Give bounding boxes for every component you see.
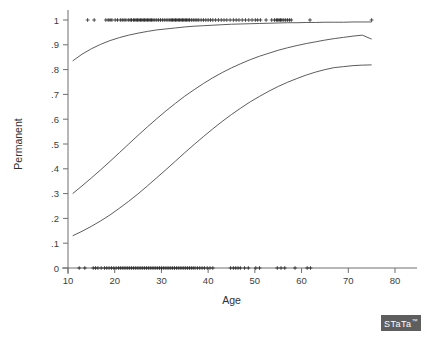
- trademark-symbol: ™: [412, 318, 419, 324]
- scatter-marker-plus: [99, 266, 103, 270]
- scatter-marker-plus: [258, 266, 262, 270]
- stata-logo-text: STaTa: [384, 319, 412, 329]
- y-tick-label: .5: [51, 139, 59, 150]
- logistic-regression-plot: 0.1.2.3.4.5.6.7.8.91 1020304050607080 Ag…: [0, 0, 427, 339]
- scatter-marker-plus: [86, 18, 90, 22]
- scatter-marker-plus: [293, 266, 297, 270]
- scatter-marker-plus: [264, 18, 268, 22]
- scatter-points: [77, 18, 373, 270]
- y-tick-label: 1: [54, 15, 59, 26]
- y-axis-title: Permanent: [12, 118, 24, 169]
- x-tick-label: 80: [390, 275, 401, 286]
- curve-lower-curve: [73, 65, 372, 236]
- fitted-curves: [73, 22, 372, 236]
- scatter-marker-plus: [247, 18, 251, 22]
- scatter-marker-plus: [110, 18, 114, 22]
- y-tick-label: .1: [51, 238, 59, 249]
- scatter-marker-plus: [275, 266, 279, 270]
- y-tick-label: .2: [51, 213, 59, 224]
- x-tick-label: 10: [63, 275, 74, 286]
- scatter-marker-plus: [92, 18, 96, 22]
- chart-container: 0.1.2.3.4.5.6.7.8.91 1020304050607080 Ag…: [0, 0, 427, 339]
- y-tick-label: .6: [51, 114, 59, 125]
- y-tick-label: .9: [51, 39, 59, 50]
- x-tick-label: 70: [343, 275, 354, 286]
- x-tick-label: 50: [250, 275, 261, 286]
- x-tick-label: 30: [156, 275, 167, 286]
- scatter-marker-plus: [308, 18, 312, 22]
- x-tick-label: 40: [203, 275, 214, 286]
- x-tick-label: 60: [296, 275, 307, 286]
- scatter-marker-plus: [83, 266, 87, 270]
- scatter-marker-plus: [225, 18, 229, 22]
- scatter-marker-plus: [259, 18, 263, 22]
- scatter-marker-plus: [283, 266, 287, 270]
- scatter-marker-plus: [289, 18, 293, 22]
- y-tick-label: .7: [51, 89, 59, 100]
- scatter-marker-plus: [250, 18, 254, 22]
- scatter-marker-plus: [240, 18, 244, 22]
- y-tick-label: .3: [51, 188, 59, 199]
- scatter-marker-plus: [237, 18, 241, 22]
- scatter-marker-plus: [228, 18, 232, 22]
- scatter-marker-plus: [238, 266, 242, 270]
- scatter-marker-plus: [305, 266, 309, 270]
- scatter-marker-plus: [244, 18, 248, 22]
- scatter-marker-plus: [96, 266, 100, 270]
- curve-middle-curve: [73, 35, 372, 193]
- scatter-marker-plus: [279, 266, 283, 270]
- scatter-marker-plus: [370, 18, 374, 22]
- y-tick-label: .8: [51, 64, 59, 75]
- x-tick-label: 20: [109, 275, 120, 286]
- scatter-marker-plus: [211, 266, 215, 270]
- scatter-marker-plus: [246, 266, 250, 270]
- y-axis: 0.1.2.3.4.5.6.7.8.91: [51, 10, 68, 274]
- scatter-marker-plus: [77, 266, 81, 270]
- scatter-marker-plus: [243, 266, 247, 270]
- stata-logo: STaTa™: [381, 315, 421, 331]
- y-tick-label: .4: [51, 163, 59, 174]
- x-axis-title: Age: [222, 294, 241, 306]
- y-tick-label: 0: [54, 263, 59, 274]
- scatter-marker-plus: [309, 266, 313, 270]
- x-axis: 1020304050607080: [62, 268, 417, 286]
- curve-upper-curve: [73, 22, 372, 61]
